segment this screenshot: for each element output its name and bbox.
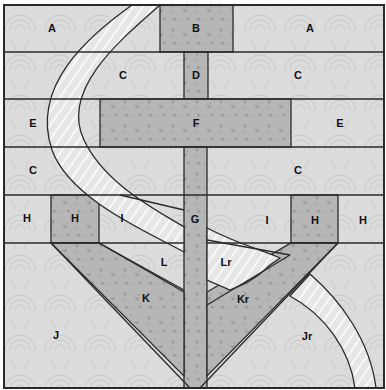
label-C-mid-right: C [294,164,302,176]
label-C-mid-left: C [29,164,37,176]
quilt-block-svg: ABACDCEFECCHHIGIHHLLrKKrJJr [0,0,386,390]
label-A-left: A [48,22,56,34]
label-I-right: I [265,214,268,226]
label-E-right: E [336,117,343,129]
label-C-top-right: C [294,69,302,81]
label-H-far-left: H [23,212,31,224]
label-J: J [53,329,59,341]
label-H-far-right: H [359,214,367,226]
label-H-right: H [311,214,319,226]
quilt-diagram: ABACDCEFECCHHIGIHHLLrKKrJJr [0,0,386,390]
label-B: B [192,22,200,34]
label-C-top-left: C [119,69,127,81]
label-F: F [193,117,200,129]
label-K: K [142,292,150,304]
label-D: D [192,69,200,81]
label-Kr: Kr [237,293,250,305]
label-Jr: Jr [302,330,313,342]
label-Lr: Lr [221,256,233,268]
label-I-left: I [120,212,123,224]
piece-G [184,147,207,388]
label-L: L [161,256,168,268]
label-H-left: H [71,212,79,224]
label-A-right: A [306,22,314,34]
label-G: G [191,213,200,225]
label-E-left: E [29,117,36,129]
